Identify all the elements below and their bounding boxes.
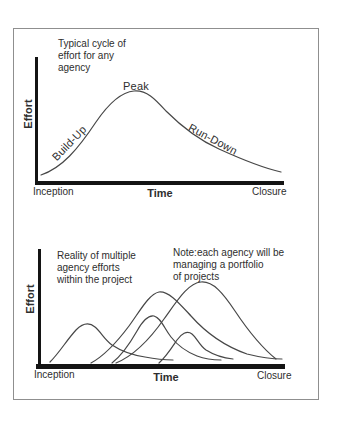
peak-annotation: Peak bbox=[123, 80, 149, 92]
bottom-chart-title: Reality of multiple agency efforts withi… bbox=[57, 250, 136, 286]
bottom-inception-label: Inception bbox=[34, 369, 75, 381]
top-closure-label: Closure bbox=[252, 186, 286, 198]
bottom-closure-label: Closure bbox=[257, 370, 291, 382]
bottom-y-axis-label: Effort bbox=[24, 284, 36, 313]
top-chart-title: Typical cycle of effort for any agency bbox=[58, 38, 126, 74]
top-x-axis bbox=[35, 181, 284, 185]
top-inception-label: Inception bbox=[33, 186, 74, 198]
bottom-chart-note: Note:each agency will be managing a port… bbox=[173, 247, 284, 283]
top-y-axis-label: Effort bbox=[22, 99, 34, 128]
figure-frame bbox=[13, 28, 319, 400]
bottom-y-axis bbox=[38, 249, 41, 367]
top-time-label: Time bbox=[147, 187, 172, 199]
bottom-time-label: Time bbox=[153, 371, 178, 383]
top-y-axis bbox=[35, 57, 38, 184]
